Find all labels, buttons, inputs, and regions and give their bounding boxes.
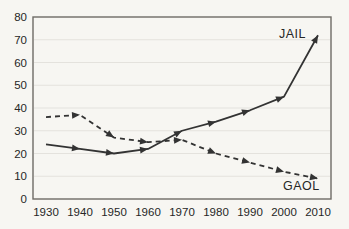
x-tick-label: 1990 — [237, 206, 263, 218]
x-tick-label: 1970 — [169, 206, 195, 218]
x-tick-label: 1950 — [101, 206, 127, 218]
series-line-jail — [46, 35, 318, 153]
arrowhead-marker — [275, 93, 285, 102]
x-tick-label: 1940 — [67, 206, 93, 218]
y-tick-label: 50 — [14, 79, 27, 91]
arrowhead-marker — [207, 147, 217, 156]
arrowhead-marker — [311, 34, 321, 44]
y-tick-label: 10 — [14, 170, 27, 182]
y-tick-label: 60 — [14, 57, 27, 69]
x-tick-label: 2000 — [271, 206, 297, 218]
arrowhead-marker — [275, 166, 284, 175]
y-tick-label: 80 — [14, 11, 27, 23]
line-chart: 0102030405060708019301940195019601970198… — [0, 0, 349, 229]
arrowhead-marker — [105, 130, 115, 140]
x-tick-label: 1960 — [135, 206, 161, 218]
arrowhead-marker — [72, 111, 80, 118]
y-tick-label: 70 — [14, 34, 27, 46]
y-tick-label: 0 — [21, 193, 27, 205]
series-label-gaol: GAOL — [283, 179, 320, 193]
y-tick-label: 20 — [14, 148, 27, 160]
arrowhead-marker — [173, 128, 183, 138]
x-tick-label: 1980 — [203, 206, 229, 218]
y-tick-label: 40 — [14, 102, 27, 114]
x-tick-label: 2010 — [305, 206, 331, 218]
y-tick-label: 30 — [14, 125, 27, 137]
x-tick-label: 1930 — [33, 206, 59, 218]
series-label-jail: JAIL — [279, 27, 306, 41]
arrowhead-marker — [174, 136, 182, 143]
arrowhead-marker — [241, 157, 250, 166]
